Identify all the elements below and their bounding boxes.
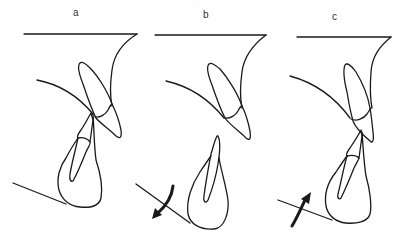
- panel-a: [13, 34, 137, 207]
- panel-c-lower-incisor-crown: [347, 130, 362, 158]
- panel-b: [136, 35, 266, 229]
- panel-a-symphysis: [58, 114, 102, 207]
- panel-c-lower-incisor-root: [338, 156, 359, 199]
- panel-c: [278, 37, 391, 226]
- panel-a-lower-incisor-root: [70, 138, 91, 181]
- panel-b-rotation-arrow: [157, 186, 173, 214]
- panel-a-upper-incisor-cej: [95, 104, 112, 117]
- panel-b-upper-incisor-cej: [225, 106, 242, 118]
- panel-b-maxilla-profile: [241, 35, 267, 108]
- panel-b-mandibular-line: [136, 184, 190, 223]
- panel-b-arch-curve: [166, 81, 224, 118]
- panel-b-lower-incisor: [204, 136, 220, 202]
- panel-b-symphysis: [188, 156, 229, 229]
- panel-c-upper-incisor: [344, 64, 373, 142]
- panel-c-rotation-arrow: [292, 198, 306, 226]
- panel-a-lower-incisor-crown: [78, 113, 93, 142]
- diagram-canvas: [0, 0, 400, 240]
- panel-a-arch-curve: [37, 80, 93, 114]
- panel-a-upper-incisor: [79, 62, 122, 137]
- panel-a-maxilla-profile: [111, 34, 138, 106]
- panel-c-maxilla-profile: [370, 37, 391, 108]
- panel-c-arch-curve: [290, 76, 350, 118]
- dental-figure: a b c: [0, 0, 400, 240]
- panel-c-symphysis: [325, 132, 370, 223]
- panel-c-upper-incisor-cej: [351, 108, 371, 120]
- panel-b-upper-incisor: [208, 63, 251, 139]
